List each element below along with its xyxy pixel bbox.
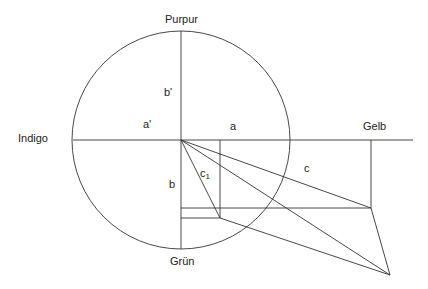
label-a: a — [230, 121, 236, 132]
label-c1: c1 — [200, 168, 210, 181]
label-purpur: Purpur — [165, 14, 198, 25]
label-gruen: Grün — [170, 256, 194, 267]
label-c1-subscript: 1 — [206, 172, 210, 181]
label-b-prime: b' — [164, 87, 172, 98]
label-c: c — [304, 163, 310, 174]
label-indigo: Indigo — [18, 133, 48, 144]
label-a-prime: a' — [143, 119, 151, 130]
label-b: b — [169, 179, 175, 190]
c1-to-far — [220, 218, 390, 275]
label-gelb: Gelb — [363, 121, 386, 132]
color-circle-diagram — [0, 0, 428, 289]
diagonal-to-far — [181, 140, 390, 275]
